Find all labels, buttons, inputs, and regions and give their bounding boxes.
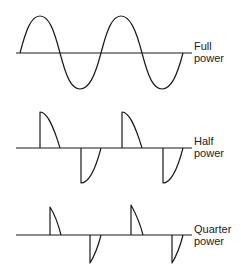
full-power-label-line2: power xyxy=(194,52,224,64)
quarter-power-label-line2: power xyxy=(194,235,231,247)
half-power-pulse-neg-1 xyxy=(81,148,101,183)
quarter-power-pulse-pos-1 xyxy=(50,207,61,235)
quarter-power-label: Quarter power xyxy=(194,223,231,247)
quarter-power-label-line1: Quarter xyxy=(194,223,231,235)
quarter-power-waveform xyxy=(16,205,192,263)
half-power-pulse-pos-2 xyxy=(122,112,142,148)
half-power-pulse-neg-2 xyxy=(163,148,183,183)
half-power-label: Half power xyxy=(194,135,224,159)
full-power-label: Full power xyxy=(194,40,224,64)
full-power-waveform xyxy=(16,16,192,89)
quarter-power-pulse-neg-2 xyxy=(172,235,183,263)
quarter-power-pulse-pos-2 xyxy=(131,205,143,235)
half-power-waveform xyxy=(16,112,192,183)
half-power-label-line2: power xyxy=(194,147,224,159)
quarter-power-pulse-neg-1 xyxy=(90,235,101,263)
half-power-label-line1: Half xyxy=(194,135,224,147)
full-power-label-line1: Full xyxy=(194,40,224,52)
half-power-pulse-pos-1 xyxy=(40,112,60,148)
